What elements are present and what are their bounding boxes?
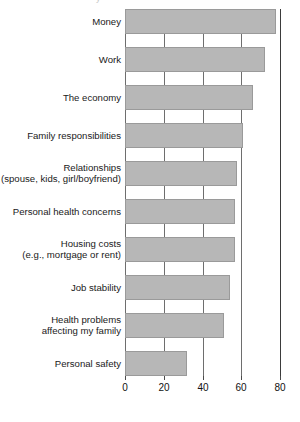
category-label: The economy <box>63 92 121 104</box>
bar <box>125 275 230 300</box>
x-tick-0 <box>125 376 126 380</box>
category-label: Work <box>99 54 121 66</box>
x-tick-label: 80 <box>274 382 285 393</box>
category-label: Family responsibilities <box>27 130 121 142</box>
category-label: Relationships (spouse, kids, girl/boyfri… <box>1 162 121 185</box>
x-tick-60 <box>241 376 242 380</box>
axis-line-80 <box>280 9 281 376</box>
bar <box>125 199 235 224</box>
x-tick-20 <box>164 376 165 380</box>
bar <box>125 351 187 376</box>
bar <box>125 85 253 110</box>
category-label: Personal health concerns <box>13 206 121 218</box>
category-label: Housing costs (e.g., mortgage or rent) <box>22 238 121 261</box>
category-label: Job stability <box>71 282 121 294</box>
category-label: Personal safety <box>55 358 121 370</box>
x-tick-label: 0 <box>122 382 128 393</box>
x-tick-40 <box>203 376 204 380</box>
x-tick-label: 20 <box>158 382 169 393</box>
plot-area: MoneyWorkThe economyFamily responsibilit… <box>0 0 300 422</box>
bar <box>125 47 265 72</box>
x-tick-label: 60 <box>235 382 246 393</box>
bar <box>125 9 276 34</box>
category-label: Money <box>92 16 121 28</box>
x-tick-label: 40 <box>197 382 208 393</box>
category-label: Health problems affecting my family <box>42 314 121 337</box>
horizontal-bar-chart: y MoneyWorkThe economyFamily responsibil… <box>0 0 300 422</box>
bar <box>125 161 237 186</box>
bar <box>125 313 224 338</box>
bar <box>125 237 235 262</box>
bar <box>125 123 243 148</box>
x-tick-80 <box>280 376 281 380</box>
